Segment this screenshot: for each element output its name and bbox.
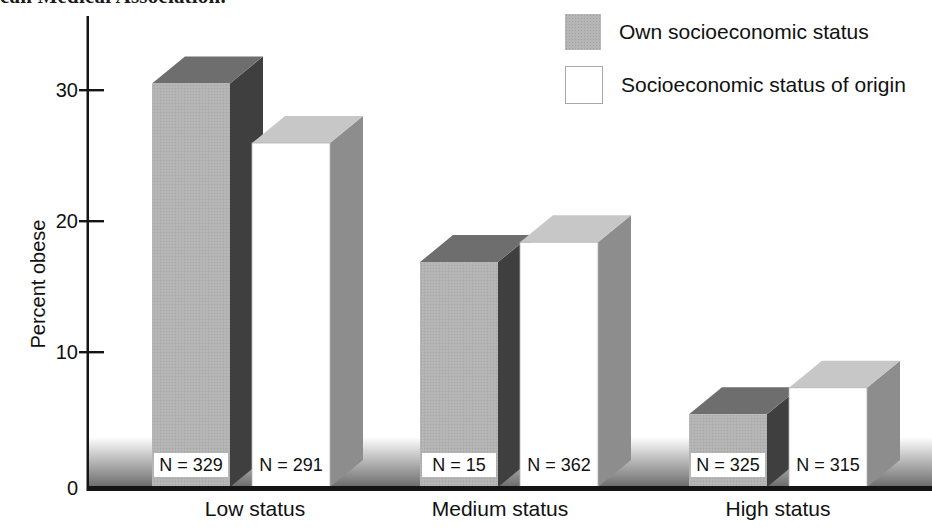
y-tick-10 bbox=[79, 351, 104, 353]
bar-side-face bbox=[598, 215, 631, 487]
bar-halftone-overlay bbox=[152, 83, 230, 489]
bar-group-2: N = 325N = 315 bbox=[689, 361, 900, 489]
bar-origin-1: N = 362 bbox=[520, 215, 631, 489]
bar-halftone-overlay bbox=[689, 414, 767, 489]
bar-group-0: N = 329N = 291 bbox=[152, 56, 363, 489]
bar-side-face bbox=[330, 116, 363, 487]
bar-chart: N = 329N = 291N = 15N = 362N = 325N = 31… bbox=[0, 0, 932, 532]
n-label: N = 315 bbox=[796, 455, 860, 475]
legend-swatch-own bbox=[565, 14, 601, 50]
n-label: N = 15 bbox=[432, 455, 486, 475]
legend-swatch-origin bbox=[565, 66, 603, 104]
x-category-label-high: High status bbox=[725, 497, 830, 521]
y-tick-label-10: 10 bbox=[28, 340, 78, 364]
y-tick-20 bbox=[79, 220, 104, 222]
n-label: N = 329 bbox=[159, 455, 223, 475]
bar-group-1: N = 15N = 362 bbox=[420, 215, 631, 489]
y-tick-label-30: 30 bbox=[28, 78, 78, 102]
y-tick-label-0: 0 bbox=[28, 476, 78, 500]
n-label: N = 325 bbox=[696, 455, 760, 475]
bar-origin-0: N = 291 bbox=[252, 116, 363, 489]
y-axis-line bbox=[87, 16, 90, 491]
x-axis-line bbox=[87, 486, 932, 491]
bars-layer: N = 329N = 291N = 15N = 362N = 325N = 31… bbox=[152, 56, 900, 489]
legend-label-origin: Socioeconomic status of origin bbox=[621, 73, 906, 97]
n-label: N = 362 bbox=[527, 455, 591, 475]
legend-item-own: Own socioeconomic status bbox=[565, 14, 906, 50]
legend-item-origin: Socioeconomic status of origin bbox=[565, 66, 906, 104]
chart-legend: Own socioeconomic status Socioeconomic s… bbox=[565, 14, 906, 120]
bar-origin-2: N = 315 bbox=[789, 361, 900, 489]
y-tick-30 bbox=[79, 89, 104, 91]
bar-front-face bbox=[520, 242, 598, 489]
bar-own-1: N = 15 bbox=[420, 235, 531, 489]
x-category-label-medium: Medium status bbox=[432, 497, 569, 521]
y-tick-label-20: 20 bbox=[28, 209, 78, 233]
bar-front-face bbox=[252, 143, 330, 489]
n-label: N = 291 bbox=[259, 455, 323, 475]
bar-own-0: N = 329 bbox=[152, 56, 263, 489]
legend-label-own: Own socioeconomic status bbox=[619, 20, 869, 44]
x-category-label-low: Low status bbox=[205, 497, 305, 521]
